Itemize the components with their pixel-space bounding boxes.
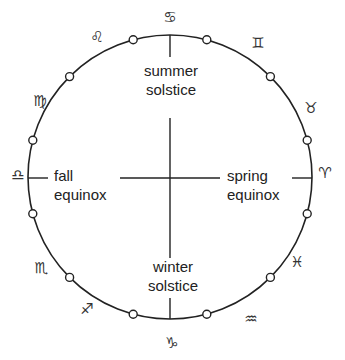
- fall-equinox-line1: fall: [54, 166, 107, 185]
- aquarius-icon: ♒︎: [244, 311, 257, 327]
- boundary-marker: [66, 73, 74, 81]
- spring-equinox-line1: spring: [227, 166, 280, 185]
- boundary-marker: [303, 136, 311, 144]
- boundary-marker: [29, 136, 37, 144]
- scorpio-icon: ♏︎: [34, 260, 47, 276]
- capricorn-icon: ♑︎: [165, 335, 178, 351]
- aries-icon: ♈︎: [318, 165, 331, 181]
- taurus-icon: ♉︎: [304, 100, 317, 116]
- boundary-marker: [203, 36, 211, 44]
- diagram-canvas: [0, 0, 345, 360]
- boundary-marker: [66, 273, 74, 281]
- winter-solstice-line2: solstice: [138, 276, 208, 295]
- spring-equinox-label: spring equinox: [227, 166, 280, 204]
- summer-solstice-label: summer solstice: [136, 61, 206, 99]
- leo-icon: ♌︎: [90, 29, 103, 45]
- libra-icon: ♎︎: [11, 167, 24, 183]
- boundary-marker: [129, 36, 137, 44]
- boundary-marker: [303, 210, 311, 218]
- boundary-marker: [266, 273, 274, 281]
- summer-solstice-line2: solstice: [136, 80, 206, 99]
- winter-solstice-label: winter solstice: [138, 257, 208, 295]
- boundary-marker: [29, 210, 37, 218]
- virgo-icon: ♍︎: [33, 93, 46, 109]
- sagittarius-icon: ♐︎: [80, 301, 93, 317]
- summer-solstice-line1: summer: [136, 61, 206, 80]
- boundary-marker: [266, 73, 274, 81]
- winter-solstice-line1: winter: [138, 257, 208, 276]
- gemini-icon: ♊︎: [251, 35, 264, 51]
- boundary-marker: [203, 310, 211, 318]
- boundary-marker: [129, 310, 137, 318]
- fall-equinox-line2: equinox: [54, 185, 107, 204]
- zodiac-seasons-diagram: summer solstice winter solstice spring e…: [0, 0, 345, 360]
- cancer-icon: ♋︎: [163, 9, 176, 25]
- pisces-icon: ♓︎: [290, 254, 303, 270]
- fall-equinox-label: fall equinox: [54, 166, 107, 204]
- spring-equinox-line2: equinox: [227, 185, 280, 204]
